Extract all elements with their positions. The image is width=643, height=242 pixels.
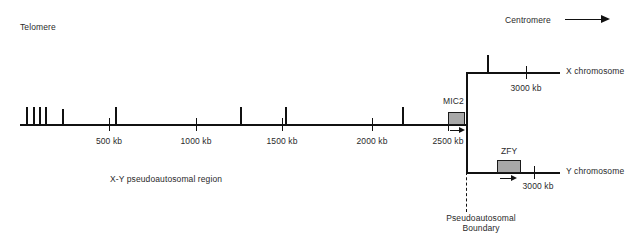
scale-label: 3000 kb (511, 83, 542, 93)
gene-box-zfy (497, 160, 521, 173)
x-chromosome-label: X chromosome (566, 66, 624, 76)
marker-tick (115, 107, 117, 124)
gene-label-zfy: ZFY (501, 146, 517, 156)
centromere-label: Centromere (505, 15, 551, 25)
scale-tick (196, 118, 197, 131)
marker-tick (62, 109, 64, 124)
scale-tick (109, 118, 110, 131)
gene-direction-arrow-zfy (500, 175, 518, 182)
scale-tick (526, 66, 527, 79)
scale-label: 2500 kb (433, 136, 464, 146)
marker-tick (45, 107, 47, 124)
branch-connector-line (466, 72, 468, 173)
marker-tick (240, 107, 242, 124)
marker-tick (285, 107, 287, 124)
scale-tick (282, 118, 283, 131)
gene-direction-arrow-mic2 (450, 127, 466, 134)
boundary-label-line2: Boundary (462, 223, 499, 233)
main-axis-line (20, 124, 467, 126)
marker-tick (39, 107, 41, 124)
scale-label: 2000 kb (357, 136, 388, 146)
scale-label: 3000 kb (523, 181, 554, 191)
scale-tick (534, 166, 535, 179)
x-chromosome-line (466, 72, 560, 74)
centromere-direction-arrow (565, 15, 610, 24)
marker-tick (33, 107, 35, 124)
pseudoautosomal-region-label: X-Y pseudoautosomal region (110, 174, 222, 184)
gene-box-mic2 (448, 112, 465, 125)
boundary-dashed-line (466, 172, 467, 212)
scale-label: 1000 kb (181, 136, 212, 146)
marker-tick (487, 55, 489, 72)
marker-tick (402, 107, 404, 124)
gene-label-mic2: MIC2 (443, 96, 464, 106)
scale-label: 1500 kb (267, 136, 298, 146)
y-chromosome-label: Y chromosome (566, 166, 624, 176)
boundary-label-line1: Pseudoautosomal (446, 213, 516, 223)
scale-label: 500 kb (96, 136, 122, 146)
marker-tick (26, 107, 28, 124)
telomere-label: Telomere (20, 22, 56, 32)
figure-canvas: Telomere Centromere 500 kb 1000 kb 1500 … (0, 0, 643, 242)
scale-tick (372, 118, 373, 131)
